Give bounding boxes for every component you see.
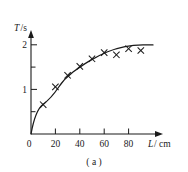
data-point-marker xyxy=(113,52,119,58)
x-axis-label-unit: / cm xyxy=(154,139,171,149)
x-tick-label-40: 40 xyxy=(75,139,85,149)
x-tick-label-80: 80 xyxy=(124,139,134,149)
data-point-marker xyxy=(52,84,58,90)
x-tick-label-20: 20 xyxy=(51,139,61,149)
x-tick-label-60: 60 xyxy=(99,139,109,149)
x-axis-label-symbol: L xyxy=(147,139,153,149)
y-axis-label-symbol: T xyxy=(14,23,20,33)
x-axis xyxy=(31,131,163,137)
data-point-marker xyxy=(40,102,46,108)
chart-svg: 1 2 0 20 40 60 80 T /s L / cm ( a ) xyxy=(0,0,188,172)
x-tick-label-0: 0 xyxy=(27,139,32,149)
y-axis-label: T /s xyxy=(14,23,27,33)
y-axis-arrowhead xyxy=(28,30,34,38)
data-point-markers xyxy=(40,46,144,108)
y-axis-label-unit: /s xyxy=(21,23,28,33)
data-point-marker xyxy=(138,47,144,53)
figure-container: 1 2 0 20 40 60 80 T /s L / cm ( a ) xyxy=(0,0,188,172)
x-axis-arrowhead xyxy=(155,131,163,137)
y-tick-label-2: 2 xyxy=(22,40,27,50)
y-axis-ticks xyxy=(31,45,37,112)
data-point-marker xyxy=(77,63,83,69)
y-axis xyxy=(28,30,34,134)
figure-caption: ( a ) xyxy=(86,157,101,168)
x-axis-ticks xyxy=(55,129,128,135)
x-axis-label: L / cm xyxy=(147,139,171,149)
y-tick-label-1: 1 xyxy=(22,85,27,95)
